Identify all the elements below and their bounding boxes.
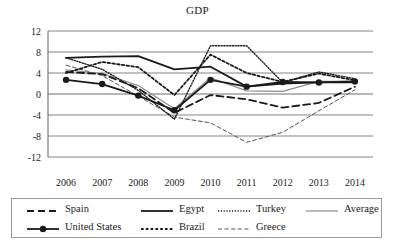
y-tick-label: 4 <box>36 68 41 79</box>
plot-area: 12840-4-8-12 <box>0 24 395 174</box>
legend-label-spain: Spain <box>65 204 89 215</box>
legend-label-greece: Greece <box>256 222 286 233</box>
series-marker-united-states <box>243 83 249 89</box>
legend-swatch-spain <box>26 203 60 215</box>
y-tick-label: -4 <box>33 110 41 121</box>
x-tick-label: 2010 <box>201 177 221 188</box>
legend-swatch-turkey <box>217 203 251 215</box>
legend-item-egypt[interactable]: Egypt <box>140 200 204 218</box>
legend-label-united-states: United States <box>65 222 121 233</box>
x-axis: 200620072008200920102011201220132014 <box>0 174 395 196</box>
chart-screenshot: GDP 12840-4-8-12 20062007200820092010201… <box>0 0 395 247</box>
y-tick-label: 12 <box>31 26 41 37</box>
legend-swatch-greece <box>217 221 251 233</box>
y-tick-label: 0 <box>36 89 41 100</box>
x-tick-label: 2014 <box>345 177 365 188</box>
legend-item-united-states[interactable]: United States <box>26 218 121 236</box>
legend-item-turkey[interactable]: Turkey <box>217 200 286 218</box>
legend-label-turkey: Turkey <box>256 204 286 215</box>
series-marker-united-states <box>316 79 322 85</box>
series-marker-united-states <box>135 92 141 98</box>
x-axis-tick-labels: 200620072008200920102011201220132014 <box>56 177 365 188</box>
x-tick-label: 2009 <box>164 177 184 188</box>
gridlines <box>48 31 373 157</box>
x-tick-label: 2006 <box>56 177 76 188</box>
series-marker-united-states <box>171 107 177 113</box>
x-tick-label: 2008 <box>128 177 148 188</box>
legend-item-greece[interactable]: Greece <box>217 218 286 236</box>
legend-swatch-united-states <box>26 221 60 233</box>
y-tick-label: -12 <box>28 152 41 163</box>
x-tick-label: 2012 <box>273 177 293 188</box>
page-title: GDP <box>0 4 395 16</box>
legend-item-average[interactable]: Average <box>305 200 379 218</box>
x-tick-label: 2013 <box>309 177 329 188</box>
legend-swatch-egypt <box>140 203 174 215</box>
legend-item-spain[interactable]: Spain <box>26 200 89 218</box>
line-chart: 12840-4-8-12 <box>0 24 395 174</box>
series-marker-united-states <box>280 79 286 85</box>
legend: Spain Egypt Turkey Average United States <box>11 198 382 238</box>
legend-label-average: Average <box>344 204 379 215</box>
legend-label-brazil: Brazil <box>179 222 205 233</box>
legend-swatch-brazil <box>140 221 174 233</box>
y-tick-label: 8 <box>36 47 41 58</box>
legend-item-brazil[interactable]: Brazil <box>140 218 205 236</box>
y-tick-label: -8 <box>33 131 41 142</box>
series-marker-united-states <box>207 77 213 83</box>
legend-swatch-average <box>305 203 339 215</box>
series-marker-united-states <box>352 78 358 84</box>
series-marker-united-states <box>63 77 69 83</box>
legend-label-egypt: Egypt <box>179 204 204 215</box>
legend-row-2: United States Brazil Greece <box>12 218 383 236</box>
x-tick-label: 2011 <box>237 177 257 188</box>
legend-row-1: Spain Egypt Turkey Average <box>12 200 383 218</box>
series-marker-united-states <box>99 81 105 87</box>
series-line-brazil <box>66 55 355 95</box>
y-axis-tick-labels: 12840-4-8-12 <box>28 26 41 163</box>
x-tick-label: 2007 <box>92 177 112 188</box>
